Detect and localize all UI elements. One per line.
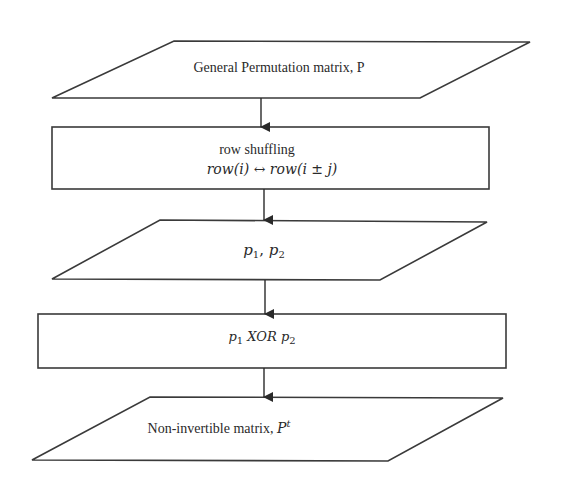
separator: , — [259, 241, 269, 259]
formula-rhs: row(i ± j) — [270, 161, 337, 177]
p-superscript: t — [286, 418, 290, 429]
p2-symbol: p — [269, 241, 279, 259]
node-row-shuffling-label: row shuffling row(i) ↔ row(i ± j) — [177, 142, 338, 178]
label-text: Non-invertible matrix, — [148, 421, 277, 436]
p2-subscript: 2 — [289, 335, 295, 346]
p-symbol: P — [277, 420, 286, 436]
node-general-permutation-label: General Permutation matrix, P — [193, 60, 364, 77]
p2-symbol: p — [281, 329, 289, 344]
node-xor-label: p1 XOR p2 — [228, 329, 295, 347]
row-shuffling-title: row shuffling — [177, 142, 338, 159]
p2-subscript: 2 — [278, 249, 284, 260]
xor-operator: XOR — [243, 329, 281, 344]
label-text: General Permutation matrix, P — [193, 60, 364, 75]
p1-symbol: p — [243, 241, 253, 259]
node-non-invertible-label: Non-invertible matrix, Pt — [148, 418, 291, 438]
row-swap-formula: row(i) ↔ row(i ± j) — [207, 161, 338, 178]
formula-lhs: row(i) — [207, 161, 250, 177]
node-p1-p2-label: p1, p2 — [243, 241, 285, 261]
swap-arrow-icon: ↔ — [254, 161, 266, 177]
